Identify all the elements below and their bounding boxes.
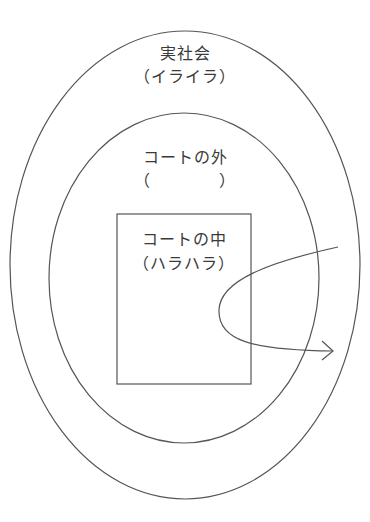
- inner-region-subtitle: （ハラハラ）: [114, 253, 254, 275]
- outer-region-subtitle: （イライラ）: [115, 66, 255, 88]
- outer-region-title: 実社会: [135, 43, 235, 65]
- inner-region-title: コートの中: [124, 229, 244, 251]
- middle-region-subtitle: （ ）: [115, 170, 255, 192]
- middle-region-title: コートの外: [125, 147, 245, 169]
